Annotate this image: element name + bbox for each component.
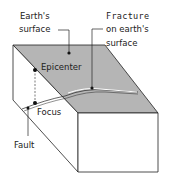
focus-dot <box>33 101 37 105</box>
label-fault: Fault <box>14 140 35 150</box>
label-fracture-2: on earth's <box>106 24 149 34</box>
epicenter-dot <box>33 68 37 72</box>
label-epicenter: Epicenter <box>41 62 82 72</box>
label-fracture-3: surface <box>106 38 137 48</box>
earthquake-diagram: Earth's surface Fracture on earth's surf… <box>0 0 171 178</box>
block-front-face <box>78 113 158 172</box>
label-focus: Focus <box>37 107 62 117</box>
label-earths-surface-2: surface <box>19 24 50 34</box>
label-fracture-1: Fracture <box>106 11 149 21</box>
label-earths-surface-1: Earth's <box>20 11 50 21</box>
